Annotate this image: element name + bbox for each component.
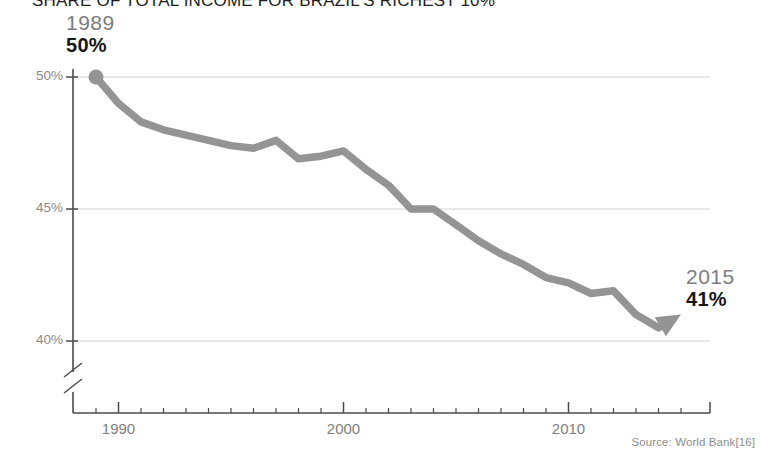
start-point-marker bbox=[89, 70, 104, 85]
data-line-series bbox=[96, 77, 666, 328]
x-axis-ticks bbox=[96, 402, 710, 413]
x-axis-tick-label: 2000 bbox=[304, 420, 384, 437]
y-axis-ticks bbox=[66, 77, 78, 341]
callout-start: 1989 50% bbox=[66, 12, 115, 57]
y-axis-tick-label: 45% bbox=[21, 200, 63, 215]
axis-lines bbox=[73, 69, 710, 413]
callout-end: 2015 41% bbox=[686, 266, 735, 311]
chart-container: SHARE OF TOTAL INCOME FOR BRAZIL'S RICHE… bbox=[0, 0, 761, 473]
y-axis-tick-label: 40% bbox=[21, 332, 63, 347]
gridlines bbox=[73, 77, 710, 341]
x-axis-tick-label: 1990 bbox=[79, 420, 159, 437]
x-axis-tick-label: 2010 bbox=[529, 420, 609, 437]
chart-plot-area bbox=[0, 0, 761, 473]
callout-start-value: 50% bbox=[66, 34, 115, 57]
source-note: Source: World Bank[16] bbox=[632, 436, 755, 448]
callout-end-year: 2015 bbox=[686, 266, 735, 288]
y-axis-tick-label: 50% bbox=[21, 68, 63, 83]
callout-end-value: 41% bbox=[686, 288, 735, 311]
callout-start-year: 1989 bbox=[66, 12, 115, 34]
